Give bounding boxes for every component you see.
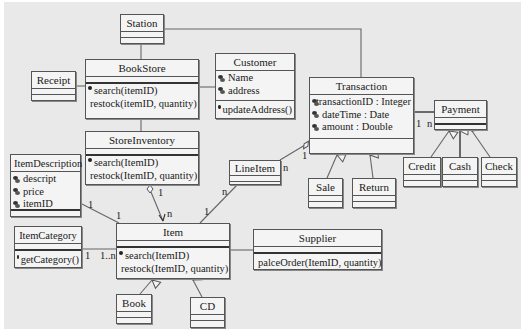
attribute-icon bbox=[13, 176, 21, 183]
class-name: Supplier bbox=[254, 230, 381, 246]
operations-section bbox=[191, 320, 224, 326]
class-itemcategory[interactable]: ItemCategory getCategory() bbox=[14, 226, 82, 268]
class-name: Credit bbox=[404, 158, 440, 174]
class-receipt[interactable]: Receipt bbox=[31, 71, 76, 101]
attribute-icon bbox=[312, 124, 320, 131]
class-customer[interactable]: Customer Name address updateAddress() bbox=[215, 53, 295, 119]
class-name: Check bbox=[482, 158, 516, 174]
class-name: Customer bbox=[216, 54, 294, 70]
operation: search(itemID) bbox=[94, 85, 158, 98]
operations-section bbox=[310, 138, 413, 154]
attribute: amount : Double bbox=[322, 121, 393, 134]
attribute-icon bbox=[218, 75, 226, 82]
class-check[interactable]: Check bbox=[481, 157, 517, 187]
operations-section bbox=[443, 180, 477, 186]
class-supplier[interactable]: Supplier palceOrder(ItemID, quantity) bbox=[253, 229, 382, 270]
operation-icon bbox=[119, 251, 123, 255]
attribute: Name bbox=[228, 72, 253, 85]
class-storeinventory[interactable]: StoreInventory search(ItemID) restock(It… bbox=[85, 131, 199, 185]
operations-section: palceOrder(ItemID, quantity) bbox=[254, 252, 381, 269]
multiplicity-label: 1 bbox=[204, 206, 209, 217]
operations-section bbox=[404, 180, 440, 186]
multiplicity-label: n bbox=[283, 162, 288, 173]
operations-section: getCategory() bbox=[15, 249, 81, 267]
class-cash[interactable]: Cash bbox=[442, 157, 478, 187]
operations-section bbox=[121, 37, 163, 43]
operation: palceOrder(ItemID, quantity) bbox=[258, 257, 382, 270]
class-name: Station bbox=[121, 15, 163, 31]
class-name: Book bbox=[117, 295, 151, 311]
class-sale[interactable]: Sale bbox=[308, 178, 343, 208]
attribute-icon bbox=[312, 111, 320, 118]
class-name: CD bbox=[191, 298, 224, 314]
operation: search(ItemID) bbox=[94, 157, 158, 170]
operation-icon bbox=[88, 86, 92, 90]
operations-section bbox=[309, 201, 342, 207]
operation: restock(ItemID, quantity) bbox=[90, 170, 197, 183]
attributes-section: transactionID : Integer dateTime : Date … bbox=[310, 94, 413, 138]
operation: restock(itemID, quantity) bbox=[90, 98, 197, 111]
class-cd[interactable]: CD bbox=[190, 297, 225, 328]
attribute: descript bbox=[23, 173, 56, 186]
operations-section: search(itemID) restock(itemID, quantity) bbox=[86, 82, 198, 111]
attributes-section: descript price itemID bbox=[11, 171, 80, 209]
attribute-icon bbox=[13, 188, 21, 195]
multiplicity-label: n bbox=[167, 208, 172, 219]
multiplicity-label: 1 bbox=[416, 118, 421, 129]
class-name: Return bbox=[353, 179, 395, 195]
class-credit[interactable]: Credit bbox=[403, 157, 441, 187]
class-name: Transaction bbox=[310, 78, 413, 94]
class-name: Payment bbox=[435, 101, 486, 117]
multiplicity-label: 1 bbox=[158, 187, 163, 198]
operations-section: search(ItemID) restock(ItemID, quantity) bbox=[86, 154, 198, 183]
class-name: ItemDescription bbox=[11, 155, 80, 171]
operations-section bbox=[482, 180, 516, 186]
operations-section bbox=[32, 94, 75, 100]
operations-section: search(ItemID) restock(ItemID, quantity) bbox=[117, 246, 229, 276]
operations-section bbox=[353, 201, 395, 207]
operation: search(ItemID) bbox=[125, 250, 189, 263]
class-name: LineItem bbox=[230, 161, 280, 175]
operations-section bbox=[230, 181, 280, 187]
class-item[interactable]: Item search(ItemID) restock(ItemID, quan… bbox=[116, 223, 230, 279]
multiplicity-label: 1 bbox=[116, 210, 121, 221]
class-lineitem[interactable]: LineItem bbox=[229, 160, 281, 185]
class-bookstore[interactable]: BookStore search(itemID) restock(itemID,… bbox=[85, 59, 199, 119]
operation-icon bbox=[218, 105, 221, 109]
class-name: StoreInventory bbox=[86, 132, 198, 148]
multiplicity-label: n bbox=[427, 118, 432, 129]
operation-icon bbox=[17, 255, 19, 259]
operation: updateAddress() bbox=[223, 104, 292, 117]
operations-section bbox=[435, 123, 486, 130]
class-itemdescription[interactable]: ItemDescription descript price itemID bbox=[10, 154, 81, 217]
class-name: Cash bbox=[443, 158, 477, 174]
class-payment[interactable]: Payment bbox=[434, 100, 487, 130]
multiplicity-label: 1..n bbox=[100, 250, 116, 261]
class-name: BookStore bbox=[86, 60, 198, 76]
multiplicity-label: 1 bbox=[85, 250, 90, 261]
attribute: price bbox=[23, 186, 44, 199]
operations-section: updateAddress() bbox=[216, 100, 294, 118]
class-name: ItemCategory bbox=[15, 227, 81, 243]
operation: restock(ItemID, quantity) bbox=[121, 263, 228, 276]
operations-section bbox=[117, 317, 151, 323]
attribute-icon bbox=[218, 87, 226, 94]
attribute-icon bbox=[312, 99, 314, 106]
class-name: Item bbox=[117, 224, 229, 240]
attribute: address bbox=[228, 85, 260, 98]
attribute: transactionID : Integer bbox=[316, 96, 411, 109]
class-return[interactable]: Return bbox=[352, 178, 396, 208]
class-book[interactable]: Book bbox=[116, 294, 152, 324]
attribute-icon bbox=[13, 201, 21, 208]
operation-icon bbox=[88, 158, 92, 162]
class-station[interactable]: Station bbox=[120, 14, 164, 44]
multiplicity-label: 1 bbox=[302, 150, 307, 161]
class-transaction[interactable]: Transaction transactionID : Integer date… bbox=[309, 77, 414, 154]
multiplicity-label: n bbox=[222, 186, 227, 197]
class-name: Sale bbox=[309, 179, 342, 195]
operation: getCategory() bbox=[21, 254, 79, 267]
class-name: Receipt bbox=[32, 72, 75, 88]
attribute: dateTime : Date bbox=[322, 109, 389, 122]
operations-section bbox=[11, 209, 80, 216]
attributes-section: Name address bbox=[216, 70, 294, 100]
